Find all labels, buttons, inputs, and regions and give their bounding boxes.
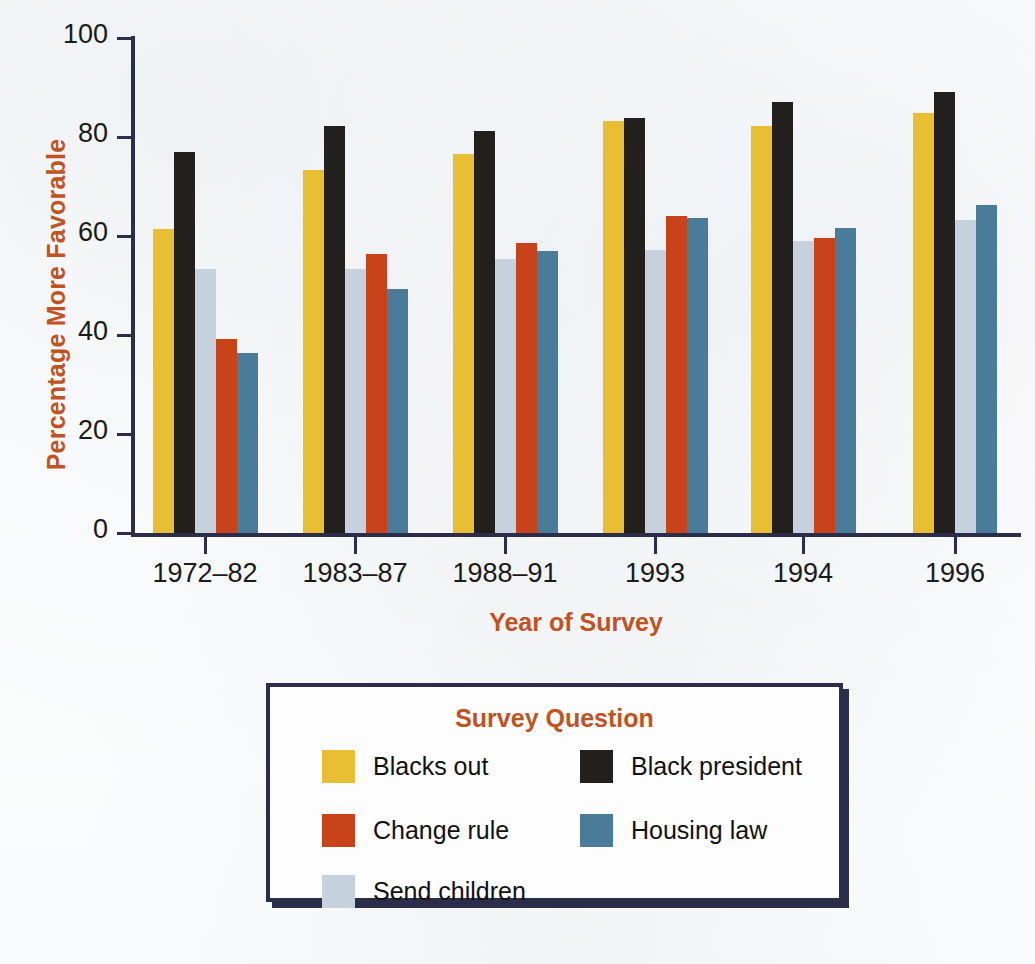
legend-label: Housing law [631, 816, 767, 845]
legend-swatch-black-president [580, 750, 613, 783]
bar [237, 353, 258, 533]
bar [913, 113, 934, 533]
bar [537, 251, 558, 533]
x-axis-tick [954, 537, 957, 554]
bar [624, 118, 645, 533]
legend-swatch-housing-law [580, 814, 613, 847]
bar [324, 126, 345, 533]
bar [934, 92, 955, 534]
bar [645, 250, 666, 533]
bar [666, 216, 687, 533]
legend-item-black-president[interactable]: Black president [580, 750, 802, 783]
bar [976, 205, 997, 533]
legend-title: Survey Question [270, 704, 839, 733]
legend-label: Blacks out [373, 752, 488, 781]
x-axis-tick [204, 537, 207, 554]
legend-label: Send children [373, 877, 526, 906]
x-axis-tick-label: 1996 [860, 558, 1035, 589]
legend-swatch-blacks-out [322, 750, 355, 783]
legend-label: Black president [631, 752, 802, 781]
bar [345, 269, 366, 533]
bar-chart: Percentage More Favorable 020406080100 1… [0, 0, 1035, 964]
legend-swatch-send-children [322, 875, 355, 908]
x-axis-title: Year of Survey [131, 608, 1021, 637]
bars-layer [0, 0, 1035, 533]
bar [687, 218, 708, 533]
bar [835, 228, 856, 533]
bar [387, 289, 408, 534]
x-axis-tick [504, 537, 507, 554]
bar [216, 339, 237, 533]
bar [195, 269, 216, 533]
legend-label: Change rule [373, 816, 509, 845]
x-axis-tick [654, 537, 657, 554]
bar [303, 170, 324, 533]
bar [516, 243, 537, 533]
bar [772, 102, 793, 533]
bar [453, 154, 474, 533]
bar [751, 126, 772, 533]
x-axis-line [131, 533, 1021, 537]
legend-swatch-change-rule [322, 814, 355, 847]
bar [793, 241, 814, 533]
legend-item-send-children[interactable]: Send children [322, 875, 526, 908]
legend-item-change-rule[interactable]: Change rule [322, 814, 509, 847]
bar [153, 229, 174, 533]
legend-item-blacks-out[interactable]: Blacks out [322, 750, 488, 783]
x-axis-tick [354, 537, 357, 554]
bar [174, 152, 195, 533]
bar [955, 220, 976, 533]
legend-item-housing-law[interactable]: Housing law [580, 814, 767, 847]
bar [495, 259, 516, 533]
bar [814, 238, 835, 534]
x-axis-tick [802, 537, 805, 554]
bar [474, 131, 495, 533]
legend-box: Survey Question Blacks out Change rule S… [266, 683, 843, 902]
bar [366, 254, 387, 533]
bar [603, 121, 624, 533]
